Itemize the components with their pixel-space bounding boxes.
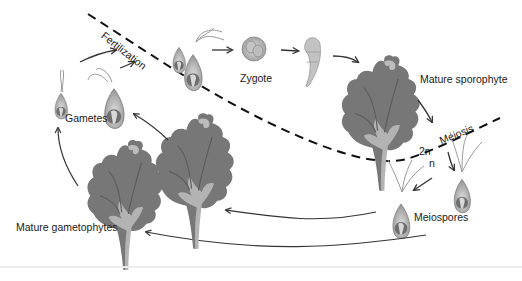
label-mature-sporophyte: Mature sporophyte	[420, 74, 508, 85]
arrow-sporophyte-to-meiosis	[418, 100, 432, 122]
arrow-gamete-to-fertilization-1	[80, 50, 116, 62]
label-zygote: Zygote	[240, 73, 272, 84]
meiospore-right	[450, 132, 482, 213]
meiospore-left	[388, 160, 424, 239]
ploidy-divider-line	[88, 14, 500, 161]
label-mature-gametophytes: Mature gametophytes	[16, 222, 118, 233]
young-sporophyte	[305, 38, 321, 87]
arrow-embryo-to-sporophyte	[333, 56, 358, 62]
arrow-meiosis-to-spore-left	[414, 178, 432, 190]
arrow-spore-to-gametophyte-1	[226, 210, 376, 219]
arrow-meiosis-to-spore-right	[448, 152, 454, 170]
label-gametes: Gametes	[65, 113, 108, 124]
arrow-gametophyte-to-gamete-small	[58, 128, 78, 186]
mature-gametophyte-left	[87, 140, 162, 270]
label-meiospores: Meiospores	[414, 212, 468, 223]
zygote-cell	[242, 37, 266, 61]
arrow-gametophyte-to-gamete-large	[134, 114, 168, 140]
arrow-spore-to-gametophyte-2	[146, 232, 426, 247]
mature-gametophyte-right	[156, 113, 234, 249]
label-ploidy-n: n	[429, 158, 435, 169]
label-ploidy-2n: 2n	[419, 146, 431, 157]
mature-sporophyte	[342, 55, 420, 191]
fused-gametes	[173, 28, 224, 91]
arrow-zygote-to-embryo	[281, 50, 298, 51]
footer-divider	[0, 266, 522, 268]
